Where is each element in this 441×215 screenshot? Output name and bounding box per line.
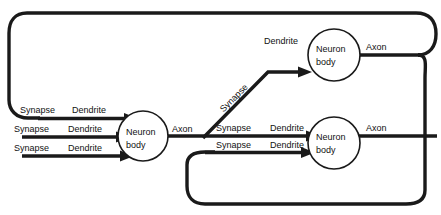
arrowhead-top-right-dendrite: [298, 67, 312, 78]
soma-label-top-right-line2: body: [316, 57, 336, 67]
label-dendrite-top-right-1: Dendrite: [264, 36, 298, 46]
soma-label-left-line1: Neuron: [126, 127, 156, 137]
label-synapse-left-1: Synapse: [20, 105, 55, 115]
neuron-network-diagram: Synapse Dendrite Synapse Dendrite Synaps…: [0, 0, 441, 215]
label-dendrite-bottom-right-1: Dendrite: [270, 123, 304, 133]
soma-label-bottom-right-line2: body: [316, 145, 336, 155]
label-dendrite-bottom-right-2: Dendrite: [270, 140, 304, 150]
label-synapse-bottom-right-2: Synapse: [216, 140, 251, 150]
diagram-canvas: Synapse Dendrite Synapse Dendrite Synaps…: [0, 0, 441, 215]
soma-bottom-right: [308, 117, 360, 169]
label-synapse-left-2: Synapse: [14, 124, 49, 134]
label-axon-bottom-right: Axon: [366, 123, 387, 133]
label-dendrite-left-3: Dendrite: [68, 143, 102, 153]
soma-label-bottom-right-line1: Neuron: [316, 132, 346, 142]
label-synapse-left-3: Synapse: [14, 143, 49, 153]
soma-label-top-right-line1: Neuron: [316, 44, 346, 54]
label-synapse-bottom-right-1: Synapse: [216, 123, 251, 133]
label-dendrite-left-2: Dendrite: [68, 124, 102, 134]
soma-label-left-line2: body: [126, 140, 146, 150]
label-axon-top-right: Axon: [366, 42, 387, 52]
label-dendrite-left-1: Dendrite: [72, 105, 106, 115]
soma-top-right: [308, 29, 360, 81]
label-axon-left: Axon: [172, 124, 193, 134]
